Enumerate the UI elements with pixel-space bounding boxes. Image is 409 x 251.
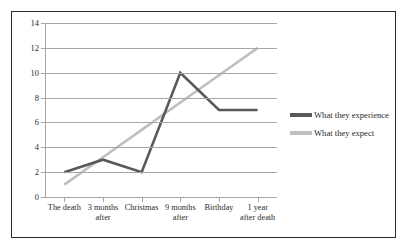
x-tick-mark [219, 198, 220, 202]
x-tick-label: 1 year after death [232, 203, 283, 222]
legend-item-what-they-experience: What they experience [290, 108, 394, 122]
gridline [45, 122, 277, 123]
y-tick-mark [41, 172, 45, 173]
legend-swatch-what-they-expect [290, 131, 312, 135]
x-tick-mark [180, 198, 181, 202]
series-lines [45, 23, 277, 197]
gridline [45, 172, 277, 173]
y-tick-mark [41, 23, 45, 24]
y-tick-label: 8 [35, 94, 39, 103]
plot-area [45, 23, 277, 197]
y-tick-label: 2 [35, 168, 39, 177]
legend-swatch-what-they-experience [290, 113, 312, 117]
y-tick-label: 12 [31, 44, 40, 53]
y-tick-mark [41, 48, 45, 49]
legend-label-what-they-expect: What they expect [314, 129, 374, 138]
gridline [45, 73, 277, 74]
x-tick-mark [64, 198, 65, 202]
x-tick-mark [103, 198, 104, 202]
y-axis-tick-labels: 02468101214 [14, 0, 39, 251]
gridline [45, 98, 277, 99]
gridline [45, 48, 277, 49]
y-tick-label: 14 [31, 19, 40, 28]
y-tick-label: 0 [35, 193, 39, 202]
x-tick-mark [142, 198, 143, 202]
y-tick-mark [41, 197, 45, 198]
legend-label-what-they-experience: What they experience [314, 111, 389, 120]
y-tick-mark [41, 122, 45, 123]
y-tick-label: 4 [35, 143, 39, 152]
chart-figure: 02468101214 The death3 months afterChris… [0, 0, 409, 251]
y-tick-mark [41, 73, 45, 74]
y-tick-mark [41, 98, 45, 99]
y-tick-label: 10 [31, 69, 40, 78]
y-tick-label: 6 [35, 118, 39, 127]
gridline [45, 23, 277, 24]
gridline [45, 197, 277, 198]
chart-legend: What they experience What they expect [290, 108, 394, 144]
gridline [45, 147, 277, 148]
legend-item-what-they-expect: What they expect [290, 126, 394, 140]
y-tick-mark [41, 147, 45, 148]
x-tick-mark [258, 198, 259, 202]
